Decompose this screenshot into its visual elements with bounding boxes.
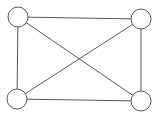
- node-top-left: [8, 7, 28, 27]
- node-bottom-right: [131, 91, 151, 111]
- node-top-right: [131, 9, 151, 29]
- edges-layer: [17, 17, 141, 101]
- edge-top-right-bottom-left: [17, 19, 141, 99]
- edge-top-left-bottom-left: [17, 17, 18, 99]
- edge-top-left-top-right: [18, 17, 141, 19]
- graph-canvas: [0, 0, 158, 116]
- edge-bottom-left-bottom-right: [17, 99, 141, 101]
- graph-diagram: [0, 0, 158, 116]
- node-bottom-left: [7, 89, 27, 109]
